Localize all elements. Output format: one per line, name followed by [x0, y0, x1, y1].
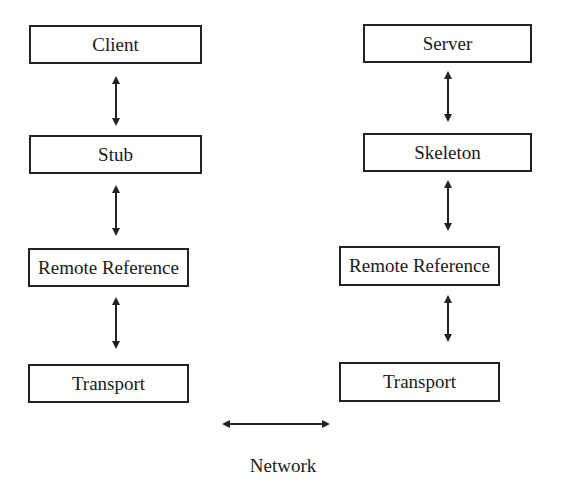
network-label: Network — [228, 455, 338, 477]
connector-arrows — [0, 0, 561, 494]
